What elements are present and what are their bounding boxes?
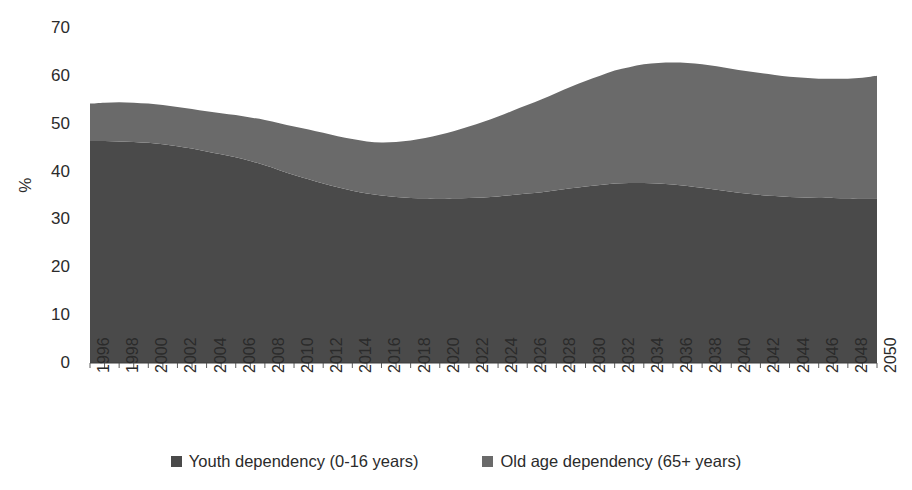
x-axis-tick-2046: 2046 xyxy=(825,337,841,373)
x-axis-tick-2038: 2038 xyxy=(708,337,724,373)
x-axis-tick-2036: 2036 xyxy=(679,337,695,373)
x-axis-tick-2004: 2004 xyxy=(213,337,229,373)
x-axis-tick-2012: 2012 xyxy=(329,337,345,373)
legend-item-youth-dependency: Youth dependency (0-16 years) xyxy=(171,452,419,471)
x-axis-tick-1998: 1998 xyxy=(125,337,141,373)
x-axis-tick-2050: 2050 xyxy=(883,337,899,373)
x-axis-tick-2048: 2048 xyxy=(854,337,870,373)
x-axis-tick-2016: 2016 xyxy=(387,337,403,373)
x-axis-tick-2040: 2040 xyxy=(737,337,753,373)
x-axis-tick-2028: 2028 xyxy=(562,337,578,373)
x-axis-tick-2024: 2024 xyxy=(504,337,520,373)
x-axis-tick-2026: 2026 xyxy=(533,337,549,373)
x-axis-tick-1996: 1996 xyxy=(96,337,112,373)
x-axis-tick-2010: 2010 xyxy=(300,337,316,373)
chart-legend: Youth dependency (0-16 years) Old age de… xyxy=(0,452,912,471)
legend-label-youth: Youth dependency (0-16 years) xyxy=(189,452,419,471)
x-axis-tick-2020: 2020 xyxy=(446,337,462,373)
legend-item-old-age-dependency: Old age dependency (65+ years) xyxy=(482,452,741,471)
x-axis-tick-2022: 2022 xyxy=(475,337,491,373)
x-axis-tick-2008: 2008 xyxy=(271,337,287,373)
x-axis-tick-2014: 2014 xyxy=(358,337,374,373)
x-axis-tick-2002: 2002 xyxy=(183,337,199,373)
x-axis-tick-2032: 2032 xyxy=(621,337,637,373)
legend-label-old-age: Old age dependency (65+ years) xyxy=(500,452,741,471)
x-axis-tick-2030: 2030 xyxy=(592,337,608,373)
x-axis-tick-2018: 2018 xyxy=(417,337,433,373)
legend-swatch-old-age-icon xyxy=(482,456,493,467)
x-axis-tick-2034: 2034 xyxy=(650,337,666,373)
x-axis-tick-2006: 2006 xyxy=(242,337,258,373)
x-axis-tick-2044: 2044 xyxy=(796,337,812,373)
series-areas xyxy=(90,62,877,363)
plot-area xyxy=(0,0,912,490)
x-axis-tick-2042: 2042 xyxy=(766,337,782,373)
stacked-area-chart: % 706050403020100 1996199820002002200420… xyxy=(0,0,912,490)
legend-swatch-youth-icon xyxy=(171,456,182,467)
x-axis-tick-2000: 2000 xyxy=(154,337,170,373)
